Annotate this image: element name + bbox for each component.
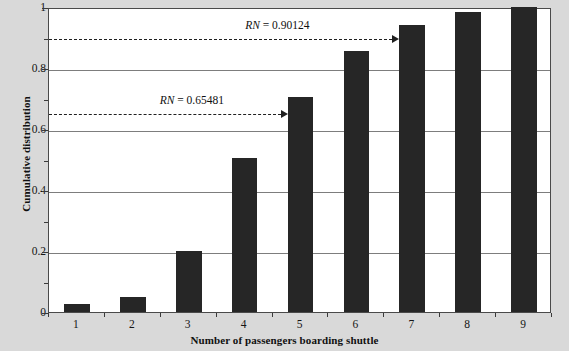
annotation-label-symbol: RN <box>245 19 260 31</box>
annotation-arrowhead <box>392 35 399 43</box>
y-tick-mark-minor <box>44 161 48 162</box>
x-tick-label: 1 <box>61 318 91 330</box>
x-tick-mark <box>272 313 273 317</box>
y-tick-mark <box>42 69 48 70</box>
annotation-arrowhead <box>281 110 288 118</box>
bar <box>344 51 370 312</box>
annotation-label-value: = 0.90124 <box>260 19 310 31</box>
x-tick-mark <box>383 313 384 317</box>
x-tick-mark <box>104 313 105 317</box>
annotation-dashed-line <box>49 39 392 40</box>
y-tick-mark-minor <box>44 222 48 223</box>
x-tick-label: 5 <box>285 318 315 330</box>
bar <box>511 7 537 312</box>
x-tick-mark <box>439 313 440 317</box>
x-tick-label: 7 <box>396 318 426 330</box>
x-tick-label: 6 <box>340 318 370 330</box>
bar <box>64 304 90 312</box>
y-tick-mark <box>42 252 48 253</box>
y-axis-tick-labels: 00.20.40.60.81 <box>12 0 46 351</box>
bar <box>176 251 202 312</box>
y-tick-mark-minor <box>44 39 48 40</box>
x-tick-mark <box>160 313 161 317</box>
x-tick-mark <box>495 313 496 317</box>
y-tick-mark-minor <box>44 283 48 284</box>
annotation-dashed-line <box>49 114 281 115</box>
annotation-label: RN = 0.90124 <box>245 19 309 31</box>
bar <box>120 297 146 312</box>
bar <box>399 25 425 312</box>
y-tick-mark-minor <box>44 100 48 101</box>
y-tick-mark <box>42 8 48 9</box>
y-tick-mark <box>42 130 48 131</box>
bar <box>232 158 258 312</box>
bar <box>455 12 481 312</box>
plot-area: RN = 0.90124RN = 0.65481 <box>48 8 551 313</box>
x-tick-label: 2 <box>117 318 147 330</box>
annotation-label-value: = 0.65481 <box>174 94 224 106</box>
cumulative-distribution-chart: Cumulative distribution 00.20.40.60.81 R… <box>0 0 569 351</box>
bar <box>288 97 314 312</box>
annotation-label: RN = 0.65481 <box>160 94 224 106</box>
x-tick-label: 3 <box>173 318 203 330</box>
annotation-label-symbol: RN <box>160 94 175 106</box>
x-tick-mark <box>48 313 49 317</box>
x-tick-label: 9 <box>508 318 538 330</box>
x-tick-mark <box>551 313 552 317</box>
x-axis-title: Number of passengers boarding shuttle <box>0 334 569 346</box>
x-tick-mark <box>216 313 217 317</box>
x-tick-label: 4 <box>229 318 259 330</box>
x-tick-mark <box>327 313 328 317</box>
y-tick-mark <box>42 191 48 192</box>
x-tick-label: 8 <box>452 318 482 330</box>
